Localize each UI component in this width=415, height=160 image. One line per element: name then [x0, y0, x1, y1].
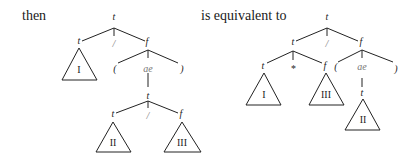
- left-slash: /: [112, 38, 117, 49]
- left-f: f: [146, 36, 150, 47]
- right-subtree-II: II: [360, 114, 367, 125]
- left-subtree-I: I: [77, 64, 80, 75]
- right-root-t: t: [326, 11, 329, 22]
- left-inner-t: t: [147, 90, 150, 101]
- left-root-t: t: [113, 11, 116, 22]
- right-subtree-III: III: [321, 89, 331, 100]
- left-ae: ae: [143, 63, 153, 74]
- right-slash: /: [325, 38, 330, 49]
- parse-tree-diagram: t t / f I ( ae ) t t / f II III t t / f …: [0, 0, 415, 160]
- right-star: *: [291, 63, 296, 74]
- right-t: t: [292, 36, 295, 47]
- left-lparen: (: [113, 63, 117, 75]
- left-inner-slash: /: [146, 110, 151, 121]
- left-rparen: ): [179, 63, 184, 75]
- left-inner-f: f: [180, 108, 184, 119]
- right-ae-t: t: [361, 87, 364, 98]
- right-f: f: [360, 36, 364, 47]
- left-subtree-II: II: [110, 137, 117, 148]
- right-rparen: ): [393, 63, 398, 75]
- right-inner-f: f: [324, 60, 328, 71]
- right-inner-t: t: [262, 60, 265, 71]
- left-t: t: [78, 35, 81, 46]
- right-lparen: (: [334, 61, 338, 73]
- right-subtree-I: I: [262, 89, 265, 100]
- right-ae: ae: [357, 61, 367, 72]
- left-inner-t2: t: [112, 108, 115, 119]
- left-subtree-III: III: [177, 137, 187, 148]
